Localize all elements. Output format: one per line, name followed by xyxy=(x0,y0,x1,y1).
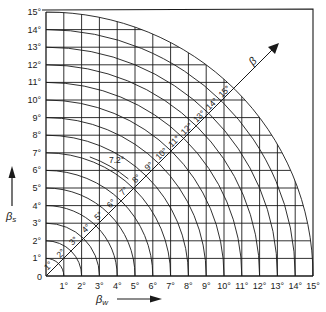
x-tick-label: 13° xyxy=(271,281,285,291)
y-tick-label: 3° xyxy=(32,218,41,228)
arc-value-label: 13° xyxy=(191,108,207,124)
y-tick-label: 6° xyxy=(32,165,41,175)
x-tick-label: 15° xyxy=(306,281,320,291)
y-tick-label: 12° xyxy=(27,60,41,70)
x-tick-label: 12° xyxy=(253,281,267,291)
y-tick-label: 4° xyxy=(32,201,41,211)
x-tick-label: 3° xyxy=(95,281,104,291)
y-tick-label: 2° xyxy=(32,236,41,246)
svg-text:βs: βs xyxy=(5,210,16,224)
x-tick-label: 7° xyxy=(166,281,175,291)
y-axis-arrow-icon xyxy=(9,166,16,206)
beta-angle-diagram: β 1°2°3°4°5°6°7°8°9°10°11°12°13°14°15° 1… xyxy=(0,0,326,312)
x-tick-labels: 1°2°3°4°5°6°7°8°9°10°11°12°13°14°15° xyxy=(59,281,320,291)
arc-value-label: 10° xyxy=(153,146,169,162)
x-tick-label: 8° xyxy=(184,281,193,291)
y-tick-label: 11° xyxy=(28,77,41,87)
x-axis-label: βw xyxy=(95,293,109,307)
arc-value-label: 8° xyxy=(130,172,143,185)
y-tick-label: 13° xyxy=(27,42,41,52)
beta-axis-label: β xyxy=(245,54,259,68)
highlight-arc-label: 7.2° xyxy=(109,155,124,165)
arc-value-label: 2° xyxy=(54,247,67,260)
arc-value-label: 3° xyxy=(67,234,80,247)
svg-text:βw: βw xyxy=(95,293,109,307)
origin-label: 0 xyxy=(37,272,42,282)
x-tick-label: 5° xyxy=(131,281,140,291)
arc-value-label: 1° xyxy=(42,259,55,272)
x-tick-label: 6° xyxy=(148,281,157,291)
arc-value-label: 11° xyxy=(166,133,182,149)
arc-value-label: 15° xyxy=(216,83,232,99)
arc-value-label: 12° xyxy=(179,121,195,137)
y-tick-label: 14° xyxy=(27,25,41,35)
y-axis-label: βs xyxy=(5,210,16,224)
arc-value-labels: 1°2°3°4°5°6°7°8°9°10°11°12°13°14°15°7.2° xyxy=(42,83,233,272)
y-tick-label: 9° xyxy=(32,113,41,123)
x-tick-label: 2° xyxy=(77,281,86,291)
x-tick-label: 10° xyxy=(217,281,231,291)
x-tick-label: 4° xyxy=(113,281,122,291)
x-tick-label: 11° xyxy=(235,281,248,291)
x-axis-subscript: w xyxy=(102,298,109,307)
y-tick-label: 7° xyxy=(32,148,41,158)
y-tick-label: 15° xyxy=(27,7,41,17)
y-tick-label: 1° xyxy=(32,253,41,263)
y-tick-label: 10° xyxy=(27,95,41,105)
x-tick-label: 1° xyxy=(59,281,68,291)
arc-value-label: 5° xyxy=(92,209,105,222)
y-axis-subscript: s xyxy=(12,215,16,224)
arc-value-label: 6° xyxy=(105,197,118,210)
x-tick-label: 9° xyxy=(202,281,211,291)
y-tick-label: 8° xyxy=(32,130,41,140)
x-tick-label: 14° xyxy=(288,281,302,291)
arc-value-label: 7° xyxy=(117,185,130,198)
y-tick-label: 5° xyxy=(32,183,41,193)
x-axis-arrow-icon xyxy=(117,296,162,303)
y-tick-labels: 1°2°3°4°5°6°7°8°9°10°11°12°13°14°15° xyxy=(27,7,41,263)
